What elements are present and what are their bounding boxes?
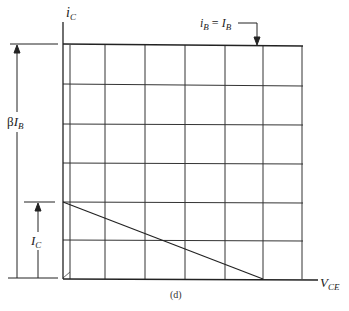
y-axis-label: iC <box>66 5 77 22</box>
transistor-characteristic-diagram: iC VCE iB = IB βIB IC (d) <box>0 0 349 311</box>
dim-upper-label: βIB <box>7 114 24 131</box>
dim-lower-label: IC <box>30 233 42 250</box>
figure-caption: (d) <box>170 289 182 301</box>
x-axis <box>63 279 318 280</box>
curve-label-arrow <box>238 23 260 45</box>
x-axis-label: VCE <box>320 275 340 292</box>
grid <box>63 45 303 279</box>
curve-label: iB = IB <box>200 16 232 32</box>
ib-curve <box>63 44 303 46</box>
